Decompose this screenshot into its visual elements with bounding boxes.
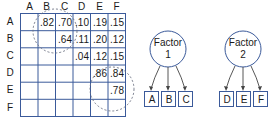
cell-A-F: .15 [108,14,125,31]
cell-B-D: .11 [73,31,90,48]
column-header-E: E [91,1,108,12]
row-header-A: A [5,16,15,27]
cell-C-F: .15 [108,48,125,65]
cell-D-F: .84 [108,65,125,82]
cell-A-C: .70 [56,14,73,31]
column-header-C: C [56,1,73,12]
indicator-label-F: F [254,92,268,107]
column-header-A: A [21,1,38,12]
row-header-B: B [5,33,15,44]
indicator-label-A: A [145,92,159,107]
column-header-B: B [38,1,55,12]
cell-B-F: .12 [108,31,125,48]
row-header-C: C [5,50,15,61]
factor-2-title: Factor [225,37,261,49]
column-header-D: D [73,1,90,12]
cell-D-E: .86 [91,65,108,82]
cell-A-B: .82 [38,14,55,31]
factor-1-number: 1 [150,49,186,61]
cell-C-E: .12 [91,48,108,65]
cell-A-D: .10 [73,14,90,31]
cell-A-E: .19 [91,14,108,31]
factor-1-label: Factor 1 [150,37,186,61]
cell-B-E: .20 [91,31,108,48]
row-header-F: F [5,102,15,113]
cell-B-C: .64 [56,31,73,48]
row-header-E: E [5,84,15,95]
indicator-label-E: E [237,92,251,107]
indicator-label-B: B [162,92,176,107]
indicator-label-C: C [179,92,193,107]
factor-2-label: Factor 2 [225,37,261,61]
factor-2-number: 2 [225,49,261,61]
factor-1-title: Factor [150,37,186,49]
cell-C-D: .04 [73,48,90,65]
row-header-D: D [5,67,15,78]
cell-E-F: .78 [108,82,125,99]
indicator-label-D: D [220,92,234,107]
column-header-F: F [108,1,125,12]
